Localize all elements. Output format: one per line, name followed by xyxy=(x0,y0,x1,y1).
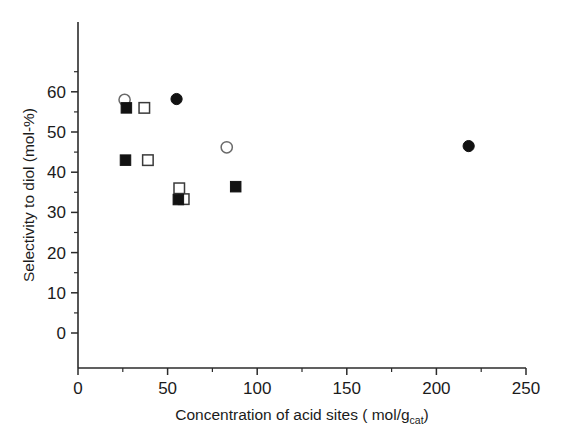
x-axis-title: Concentration of acid sites ( mol/gcat) xyxy=(175,406,429,426)
y-tick-label: 10 xyxy=(47,284,66,303)
axes xyxy=(78,22,526,368)
y-axis-ticks xyxy=(71,72,78,333)
x-tick-label: 150 xyxy=(333,379,361,398)
y-tick-label: 20 xyxy=(47,244,66,263)
y-tick-label: 60 xyxy=(47,83,66,102)
marker-square-open xyxy=(174,183,185,194)
x-tick-label: 50 xyxy=(158,379,177,398)
y-tick-label: 0 xyxy=(57,324,66,343)
marker-circle-filled xyxy=(463,140,474,151)
x-tick-label: 100 xyxy=(243,379,271,398)
x-tick-label: 250 xyxy=(512,379,540,398)
data-markers xyxy=(119,93,474,204)
marker-square-open xyxy=(143,155,154,166)
marker-square-filled xyxy=(173,194,184,205)
x-axis-tick-labels: 050100150200250 xyxy=(73,379,540,398)
marker-square-filled xyxy=(230,181,241,192)
marker-square-filled xyxy=(120,155,131,166)
chart-canvas: 0102030405060 050100150200250 Concentrat… xyxy=(0,0,564,447)
marker-circle-open xyxy=(221,142,232,153)
y-tick-label: 40 xyxy=(47,163,66,182)
x-axis-ticks xyxy=(78,368,526,375)
scatter-chart-figure: 0102030405060 050100150200250 Concentrat… xyxy=(0,0,564,447)
x-tick-label: 0 xyxy=(73,379,82,398)
marker-circle-filled xyxy=(171,93,182,104)
x-tick-label: 200 xyxy=(422,379,450,398)
y-axis-title: Selectivity to diol (mol-%) xyxy=(20,108,37,282)
y-tick-label: 30 xyxy=(47,203,66,222)
y-tick-label: 50 xyxy=(47,123,66,142)
marker-square-filled xyxy=(121,103,132,114)
y-axis-tick-labels: 0102030405060 xyxy=(47,83,66,343)
marker-square-open xyxy=(139,103,150,114)
